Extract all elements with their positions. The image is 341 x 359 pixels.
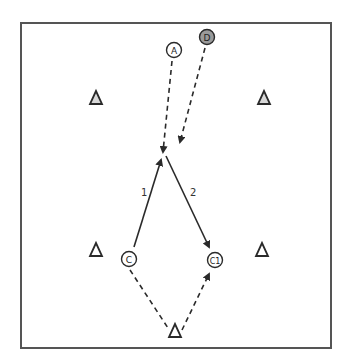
pass-label-1: 1 [141, 187, 147, 198]
drill-diagram: 1 2 A D C C1 [0, 0, 341, 359]
player-c: C [122, 252, 137, 267]
cone-icon [169, 324, 181, 337]
cone-icon [90, 91, 102, 104]
run-c-dashed-line [130, 270, 168, 328]
pass-1-arrow [134, 160, 161, 247]
svg-text:C1: C1 [210, 257, 221, 266]
run-a-dashed-arrow [163, 61, 172, 152]
pass-2-arrow [166, 156, 209, 247]
player-d: D [200, 30, 215, 45]
player-c1: C1 [208, 253, 223, 268]
run-to-c1-dashed-arrow [182, 274, 209, 330]
field-border [21, 23, 331, 348]
run-d-dashed-arrow [180, 48, 205, 142]
cone-icon [256, 243, 268, 256]
svg-text:A: A [171, 46, 178, 56]
svg-text:D: D [204, 33, 211, 43]
svg-text:C: C [126, 255, 132, 265]
cone-icon [90, 243, 102, 256]
cone-icon [258, 91, 270, 104]
player-a: A [167, 43, 182, 58]
pass-label-2: 2 [190, 187, 196, 198]
